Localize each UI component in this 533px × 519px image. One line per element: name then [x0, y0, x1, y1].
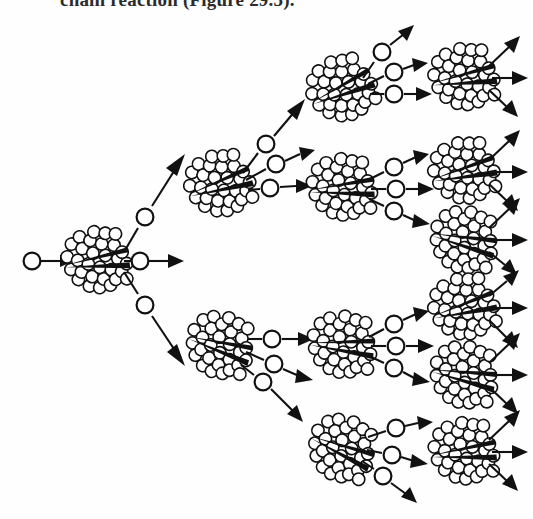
neutron-g2n1-up-icon	[258, 136, 275, 153]
neutron-g2n1-mid-icon	[268, 156, 285, 173]
neutron-g1-up-icon	[137, 209, 154, 226]
neutron-g1-mid-icon	[132, 253, 149, 270]
neutron-g3n4-mid-icon	[384, 447, 401, 464]
neutron-g1-down-icon	[137, 297, 154, 314]
neutron-g3n3-down-icon	[386, 360, 403, 377]
incident-neutron-icon	[24, 253, 41, 270]
neutron-g2n2-down-icon	[255, 374, 272, 391]
neutron-g3n3-up-icon	[386, 316, 403, 333]
neutron-g2n2-mid-icon	[266, 356, 283, 373]
neutron-g3n1-up-icon	[374, 44, 391, 61]
page-caption-strip: chain reaction (Figure 29.5).	[0, 0, 533, 14]
fission-chain-reaction-figure	[0, 0, 533, 519]
page-caption-text: chain reaction (Figure 29.5).	[60, 0, 295, 11]
neutron-g3n2-down-icon	[386, 203, 403, 220]
neutron-g3n1-mid-icon	[386, 64, 403, 81]
neutron-g3n4-up-icon	[388, 420, 405, 437]
figure-page: chain reaction (Figure 29.5).	[0, 0, 533, 519]
neutron-g2n1-down-icon	[262, 180, 279, 197]
neutron-g3n2-mid-icon	[388, 181, 405, 198]
neutron-g3n4-down-icon	[375, 468, 392, 485]
neutron-g3n1-down-icon	[386, 86, 403, 103]
neutron-g2n2-up-icon	[264, 331, 281, 348]
neutron-g3n2-up-icon	[386, 159, 403, 176]
neutron-g3n3-mid-icon	[388, 338, 405, 355]
